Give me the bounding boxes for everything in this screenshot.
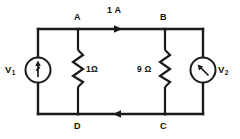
source-label-v1-subscript: 1 — [12, 69, 16, 76]
source-label-v1-name: V — [5, 64, 12, 75]
node-d-junction — [77, 113, 80, 116]
circuit-diagram: A B D C 1 A 1Ω 9 Ω V1 V2 — [0, 0, 240, 139]
resistor-label-r1: 1Ω — [86, 65, 98, 74]
source-label-v2: V2 — [218, 65, 228, 75]
circuit-schematic-svg — [0, 0, 240, 139]
resistor-r1-zigzag — [73, 50, 83, 87]
node-label-a: A — [74, 13, 81, 22]
node-label-d: D — [74, 122, 81, 131]
bottom-current-arrowhead — [113, 110, 121, 117]
node-label-c: C — [160, 122, 167, 131]
node-label-b: B — [160, 13, 167, 22]
node-b-junction — [164, 28, 167, 31]
resistor-r2-zigzag — [160, 50, 170, 87]
source-label-v1: V1 — [5, 65, 15, 75]
source-label-v2-subscript: 2 — [225, 69, 229, 76]
current-label: 1 A — [107, 6, 121, 15]
node-c-junction — [164, 113, 167, 116]
top-current-arrowhead — [114, 25, 122, 32]
source-label-v2-name: V — [218, 64, 225, 75]
resistor-label-r2: 9 Ω — [137, 65, 152, 74]
node-a-junction — [77, 28, 80, 31]
